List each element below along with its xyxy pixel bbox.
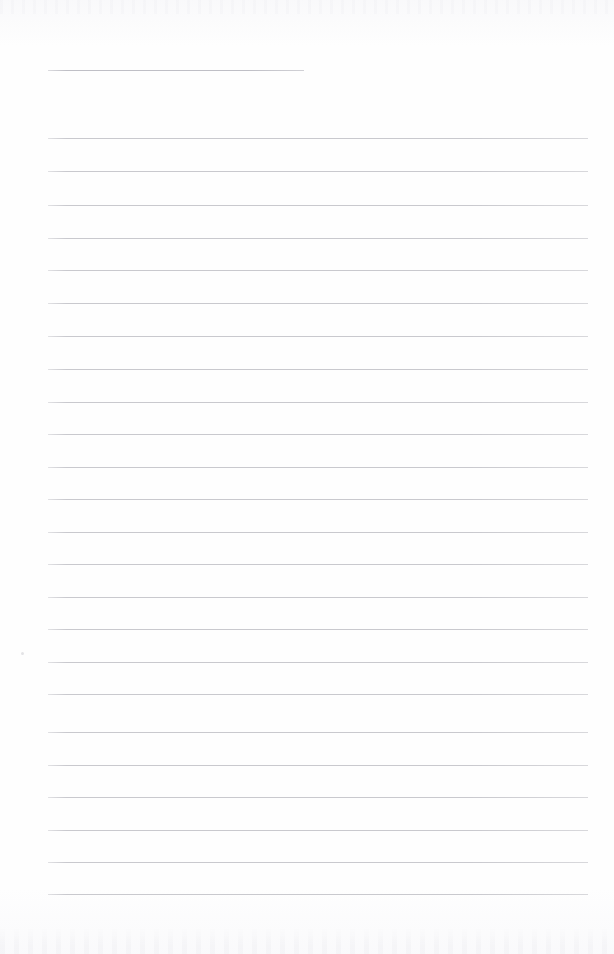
rule-line xyxy=(48,662,588,663)
rule-line xyxy=(48,597,588,598)
rule-line xyxy=(48,797,588,798)
rule-line xyxy=(48,629,588,630)
rule-line xyxy=(48,270,588,271)
rule-line xyxy=(48,499,588,500)
rule-line xyxy=(48,765,588,766)
title-rule xyxy=(48,70,304,71)
rule-line xyxy=(48,894,588,895)
rule-line xyxy=(48,467,588,468)
rule-line xyxy=(48,532,588,533)
rule-line xyxy=(48,694,588,695)
rule-line xyxy=(48,171,588,172)
notebook-page xyxy=(0,0,614,954)
rule-line xyxy=(48,238,588,239)
rule-line xyxy=(48,732,588,733)
scan-speck xyxy=(21,652,24,655)
rule-line xyxy=(48,205,588,206)
rule-line xyxy=(48,303,588,304)
rule-line xyxy=(48,830,588,831)
rule-line xyxy=(48,862,588,863)
rule-line xyxy=(48,434,588,435)
rule-line xyxy=(48,564,588,565)
rule-line xyxy=(48,402,588,403)
rule-line xyxy=(48,336,588,337)
rule-line xyxy=(48,138,588,139)
rule-line xyxy=(48,369,588,370)
ruled-lines-layer xyxy=(0,0,614,954)
